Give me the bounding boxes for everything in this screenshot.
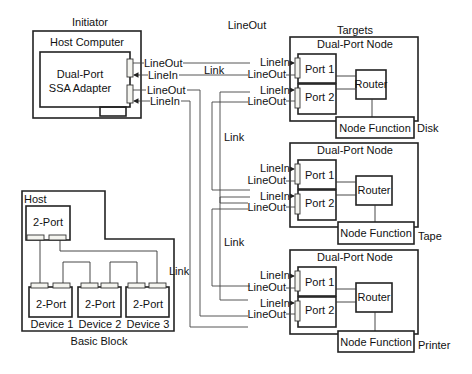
ssa-topology-diagram: Initiator LineOut Targets Host Computer … [0, 0, 472, 374]
node-title: Dual-Port Node [317, 38, 393, 50]
adapter-port-2 [127, 85, 133, 103]
port-2-label: Port 2 [305, 304, 334, 316]
link-label-1: Link [204, 64, 225, 76]
linein-label: LineIn [260, 162, 290, 174]
node-function-label: Node Function [339, 122, 411, 134]
node-title: Dual-Port Node [317, 144, 393, 156]
dual-port-node-tape: Dual-Port Node Port 1 Port 2 Router Node… [247, 143, 441, 244]
node-function-label: Node Function [340, 227, 412, 239]
dual-port-node-disk: Dual-Port Node Port 1 Port 2 Router Node… [247, 37, 438, 138]
adapter-tab [100, 107, 126, 116]
device-label-printer: Printer [418, 339, 451, 351]
adapter-label-1: Dual-Port [57, 68, 103, 80]
lineout-label: LineOut [247, 281, 286, 293]
device-3-port-label: 2-Port [133, 298, 163, 310]
initiator-linein-2: LineIn [150, 95, 180, 107]
node-title: Dual-Port Node [317, 251, 393, 263]
node-function-label: Node Function [340, 336, 412, 348]
router-label: Router [357, 184, 390, 196]
lineout-label: LineOut [247, 95, 286, 107]
port-2-label: Port 2 [305, 91, 334, 103]
link-label-4: Link [224, 236, 245, 248]
router-label: Router [354, 78, 387, 90]
port-1-label: Port 1 [305, 169, 334, 181]
host-2port-label: 2-Port [33, 216, 63, 228]
host-computer-label: Host Computer [50, 36, 124, 48]
link-label-2: Link [224, 131, 245, 143]
adapter-port-1 [127, 59, 133, 77]
linein-label: LineIn [260, 56, 290, 68]
device-2-port-label: 2-Port [85, 298, 115, 310]
basic-block: Host 2-Port 2-Port Device 1 2-Port Devic… [22, 191, 174, 331]
adapter-label-2: SSA Adapter [49, 82, 112, 94]
basic-block-label: Basic Block [71, 335, 128, 347]
router-label: Router [357, 291, 390, 303]
top-lineout-label: LineOut [228, 19, 267, 31]
device-2-label: Device 2 [79, 318, 122, 330]
lineout-label: LineOut [247, 201, 286, 213]
device-3-label: Device 3 [127, 318, 170, 330]
device-1-label: Device 1 [31, 318, 74, 330]
dual-port-node-printer: Dual-Port Node Port 1 Port 2 Router Node… [247, 250, 450, 352]
device-1-port-label: 2-Port [36, 298, 66, 310]
device-label-tape: Tape [418, 230, 442, 242]
initiator-linein-1: LineIn [148, 69, 178, 81]
port-1-label: Port 1 [305, 276, 334, 288]
targets-label: Targets [337, 24, 374, 36]
port-1-label: Port 1 [305, 63, 334, 75]
initiator-lineout-1: LineOut [144, 57, 183, 69]
host-label: Host [24, 193, 47, 205]
device-label-disk: Disk [417, 122, 439, 134]
lineout-label: LineOut [247, 68, 286, 80]
port-2-label: Port 2 [305, 197, 334, 209]
link-wires [179, 63, 250, 327]
link-label-3: Link [169, 265, 190, 277]
initiator-label: Initiator [72, 16, 108, 28]
lineout-label: LineOut [247, 174, 286, 186]
host-computer: Host Computer Dual-Port SSA Adapter [33, 31, 141, 118]
linein-label: LineIn [260, 269, 290, 281]
lineout-label: LineOut [247, 308, 286, 320]
